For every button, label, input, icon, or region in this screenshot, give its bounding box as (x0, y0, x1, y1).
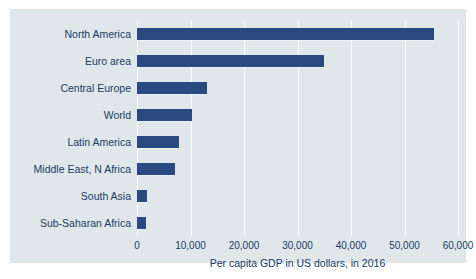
category-label: North America (0, 29, 131, 40)
category-label: Latin America (0, 137, 131, 148)
bar-row (137, 75, 458, 102)
bar-row (137, 182, 458, 209)
bar (137, 55, 324, 67)
bar-row (137, 48, 458, 75)
bar (137, 109, 192, 121)
chart-panel: North AmericaEuro areaCentral EuropeWorl… (10, 9, 466, 263)
bar (137, 190, 147, 202)
plot-area (137, 21, 458, 236)
bar (137, 28, 434, 40)
bar (137, 136, 179, 148)
bar-row (137, 129, 458, 156)
category-label: Euro area (0, 56, 131, 67)
bar (137, 82, 207, 94)
bar-series (137, 21, 458, 236)
x-tick-label: 0 (134, 240, 140, 251)
bar-row (137, 21, 458, 48)
bar (137, 163, 175, 175)
bar-row (137, 102, 458, 129)
category-label: South Asia (0, 191, 131, 202)
bar-row (137, 155, 458, 182)
x-tick-label: 20,000 (229, 240, 260, 251)
category-label: Middle East, N Africa (0, 164, 131, 175)
x-tick-label: 30,000 (282, 240, 313, 251)
category-label: World (0, 110, 131, 121)
x-tick-label: 10,000 (175, 240, 206, 251)
x-tick-label: 40,000 (336, 240, 367, 251)
x-tick-label: 60,000 (443, 240, 474, 251)
bar (137, 217, 146, 229)
bar-row (137, 209, 458, 236)
x-tick-label: 50,000 (389, 240, 420, 251)
gridline-60000 (458, 21, 459, 236)
chart-figure: North AmericaEuro areaCentral EuropeWorl… (0, 0, 476, 279)
category-label: Central Europe (0, 83, 131, 94)
x-axis-title: Per capita GDP in US dollars, in 2016 (137, 257, 458, 269)
category-label: Sub-Saharan Africa (0, 218, 131, 229)
